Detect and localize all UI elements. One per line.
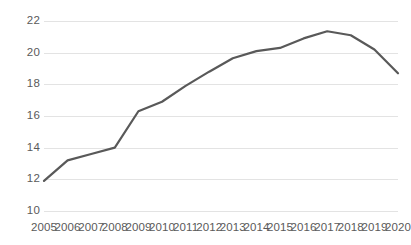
- x-axis-tick-label: 2013: [220, 222, 246, 234]
- gridline: [44, 211, 398, 212]
- y-axis-tick-label: 20: [6, 47, 40, 59]
- y-axis-tick-label: 10: [6, 205, 40, 217]
- x-axis-tick-label: 2017: [314, 222, 340, 234]
- x-axis-tick-label: 2020: [385, 222, 411, 234]
- series-line: [44, 21, 398, 211]
- x-axis-tick-label: 2008: [102, 222, 128, 234]
- x-axis-tick-label: 2005: [31, 222, 57, 234]
- x-axis-tick-label: 2007: [78, 222, 104, 234]
- x-axis-tick-label: 2019: [361, 222, 387, 234]
- y-axis-tick-label: 12: [6, 173, 40, 185]
- y-axis: 10121416182022: [0, 0, 40, 245]
- plot-area: [44, 21, 398, 211]
- x-axis-tick-label: 2012: [196, 222, 222, 234]
- y-axis-tick-label: 18: [6, 78, 40, 90]
- x-axis-tick-label: 2006: [55, 222, 81, 234]
- x-axis-tick-label: 2015: [267, 222, 293, 234]
- x-axis-tick-label: 2009: [125, 222, 151, 234]
- x-axis-tick-label: 2018: [338, 222, 364, 234]
- y-axis-tick-label: 22: [6, 15, 40, 27]
- x-axis-tick-label: 2011: [173, 222, 198, 234]
- y-axis-tick-label: 14: [6, 142, 40, 154]
- y-axis-tick-label: 16: [6, 110, 40, 122]
- x-axis-tick-label: 2016: [291, 222, 317, 234]
- x-axis-tick-label: 2010: [149, 222, 175, 234]
- x-axis: 2005200620072008200920102011201220132014…: [44, 222, 398, 238]
- x-axis-tick-label: 2014: [243, 222, 269, 234]
